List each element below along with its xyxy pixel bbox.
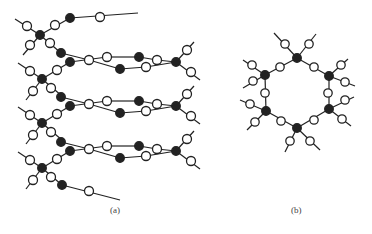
open-node [249,77,257,85]
filled-node [293,54,302,63]
filled-node [116,65,125,74]
open-node [29,131,38,140]
figure-diagram [0,0,372,234]
open-node [85,187,94,196]
open-node [248,61,256,69]
open-node [85,100,94,109]
filled-node [172,58,181,67]
filled-node [66,58,75,67]
open-node [26,41,35,50]
open-node [310,116,318,124]
panel-a-label: (a) [110,205,120,215]
open-node [85,56,94,65]
filled-node [66,147,75,156]
open-node [153,145,162,154]
open-node [53,155,62,164]
filled-node [172,102,181,111]
filled-node [293,124,302,133]
open-node [261,89,269,97]
open-node [26,111,35,120]
open-node [47,128,56,137]
open-node [324,89,332,97]
filled-node [57,49,66,58]
filled-node [57,138,66,147]
open-node [29,87,38,96]
open-node [306,137,314,145]
filled-node [325,105,334,114]
open-node [103,142,112,151]
open-node [142,152,151,161]
filled-node [135,97,144,106]
open-node [341,78,349,86]
filled-node [135,53,144,62]
open-node [96,13,105,22]
filled-node [58,181,67,190]
open-node [47,173,56,182]
open-node [26,67,35,76]
filled-node [66,102,75,111]
filled-node [325,72,334,81]
open-node [47,84,56,93]
open-node [46,39,55,48]
open-node [142,63,151,72]
open-node [103,97,112,106]
open-node [251,118,259,126]
panel-b-label: (b) [291,205,302,215]
panel-a-layered-chains [15,13,200,201]
open-node [53,110,62,119]
panel-b-ring-structure [240,33,355,152]
open-node [153,100,162,109]
open-node [187,68,196,77]
filled-node [38,164,47,173]
open-node [153,56,162,65]
open-node [305,40,313,48]
open-node [183,90,192,99]
open-node [277,117,285,125]
filled-node [135,142,144,151]
open-node [23,22,32,31]
open-node [246,100,254,108]
filled-node [57,93,66,102]
filled-node [66,14,75,23]
open-node [338,115,346,123]
open-node [85,145,94,154]
open-node [29,176,38,185]
open-node [281,40,289,48]
open-node [103,53,112,62]
open-node [53,66,62,75]
filled-node [38,119,47,128]
open-node [187,112,196,121]
filled-node [116,109,125,118]
open-node [276,63,284,71]
open-node [26,156,35,165]
open-node [310,63,318,71]
filled-node [261,71,270,80]
filled-node [172,147,181,156]
open-node [187,157,196,166]
open-node [183,135,192,144]
filled-node [36,31,45,40]
filled-node [116,154,125,163]
open-node [142,107,151,116]
open-node [183,46,192,55]
open-node [341,96,349,104]
filled-node [38,75,47,84]
open-node [337,61,345,69]
open-node [286,137,294,145]
filled-node [262,107,271,116]
open-node [51,21,60,30]
